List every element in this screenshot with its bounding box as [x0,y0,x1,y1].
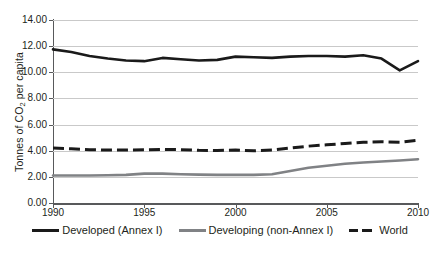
y-tick-label: 12.00 [1,41,47,51]
series-line-developing-non-annex-i [53,159,418,175]
series-line-developed-annex-i [53,49,418,70]
legend-swatch-icon [179,229,206,232]
y-tick-label: 10.00 [1,67,47,77]
x-tick-label: 2005 [307,207,347,218]
x-tick-label: 2000 [216,207,256,218]
legend-item[interactable]: Developing (non-Annex I) [179,224,334,236]
y-tick-label: 4.00 [1,146,47,156]
legend-label: World [379,224,408,236]
chart-legend: Developed (Annex I)Developing (non-Annex… [0,224,440,236]
legend-swatch-icon [32,229,59,232]
series-line-world [53,140,418,150]
y-tick-label: 14.00 [1,15,47,25]
legend-item[interactable]: Developed (Annex I) [32,224,162,236]
plot-area [53,20,418,203]
y-tick-label: 2.00 [1,172,47,182]
y-tick-label: 8.00 [1,93,47,103]
legend-label: Developing (non-Annex I) [209,224,334,236]
legend-label: Developed (Annex I) [62,224,162,236]
legend-swatch-icon [349,229,376,232]
x-tick-label: 2010 [398,207,438,218]
y-tick-label: 6.00 [1,120,47,130]
series-layer [53,20,418,203]
co2-per-capita-line-chart: Tonnes of CO2 per capita 0.002.004.006.0… [0,0,440,253]
x-tick-label: 1990 [33,207,73,218]
legend-item[interactable]: World [349,224,408,236]
x-tick-label: 1995 [124,207,164,218]
